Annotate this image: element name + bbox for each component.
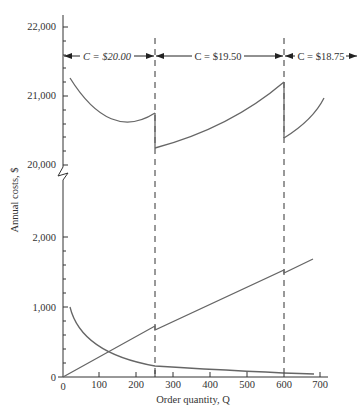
y-axis (58, 15, 68, 377)
y-tick-0: 0 (51, 372, 56, 383)
ordering-cost-curve (70, 307, 314, 374)
x-tick-300: 300 (165, 379, 181, 390)
total-cost-curve (70, 78, 324, 148)
x-tick-0: 0 (60, 381, 65, 392)
region-label-1875: C = $18.75 (297, 51, 344, 62)
region-label-1950: C = $19.50 (194, 51, 241, 62)
x-tick-400: 400 (202, 379, 218, 390)
x-tick-200: 200 (128, 379, 144, 390)
y-tick-22000: 22,000 (27, 21, 56, 32)
y-tick-2000: 2,000 (32, 232, 56, 243)
y-tick-21000: 21,000 (27, 90, 56, 101)
y-tick-20000: 20,000 (27, 159, 56, 170)
y-tick-1000: 1,000 (32, 302, 56, 313)
y-axis-title: Annual costs, $ (9, 167, 20, 232)
holding-cost-line (63, 259, 313, 377)
x-tick-700: 700 (312, 379, 328, 390)
x-tick-500: 500 (239, 379, 255, 390)
price-break-lines (155, 38, 284, 377)
region-label-20: C = $20.00 (83, 51, 132, 62)
x-tick-100: 100 (91, 379, 107, 390)
x-axis-title: Order quantity, Q (156, 394, 230, 405)
x-tick-600: 600 (276, 379, 292, 390)
chart-svg: 22,000 21,000 20,000 2,000 1,000 0 0 100… (0, 0, 363, 407)
